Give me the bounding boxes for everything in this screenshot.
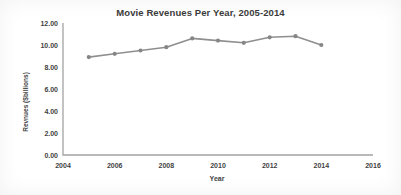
data-point-marker <box>293 34 297 38</box>
plot-area: 0.002.004.006.008.0010.0012.002004200620… <box>0 0 401 195</box>
y-tick-label: 0.00 <box>44 152 58 159</box>
axis-lines <box>63 23 373 155</box>
y-tick-label: 10.00 <box>40 42 58 49</box>
y-tick-label: 12.00 <box>40 20 58 27</box>
data-point-marker <box>113 52 117 56</box>
y-tick-label: 2.00 <box>44 130 58 137</box>
x-tick-label: 2006 <box>107 162 123 169</box>
y-tick-label: 4.00 <box>44 108 58 115</box>
x-tick-label: 2012 <box>262 162 278 169</box>
data-point-marker <box>164 45 168 49</box>
data-point-marker <box>216 39 220 43</box>
y-tick-label: 6.00 <box>44 86 58 93</box>
revenue-line <box>89 36 321 57</box>
x-tick-label: 2008 <box>159 162 175 169</box>
data-point-marker <box>190 36 194 40</box>
x-tick-label: 2010 <box>210 162 226 169</box>
x-tick-label: 2004 <box>55 162 71 169</box>
movie-revenues-chart: Movie Revenues Per Year, 2005-2014 Revnu… <box>0 0 401 195</box>
data-point-marker <box>242 41 246 45</box>
y-tick-label: 8.00 <box>44 64 58 71</box>
data-point-marker <box>268 35 272 39</box>
x-tick-label: 2014 <box>314 162 330 169</box>
x-tick-label: 2016 <box>365 162 381 169</box>
data-point-marker <box>87 55 91 59</box>
data-point-marker <box>319 43 323 47</box>
data-point-marker <box>138 48 142 52</box>
